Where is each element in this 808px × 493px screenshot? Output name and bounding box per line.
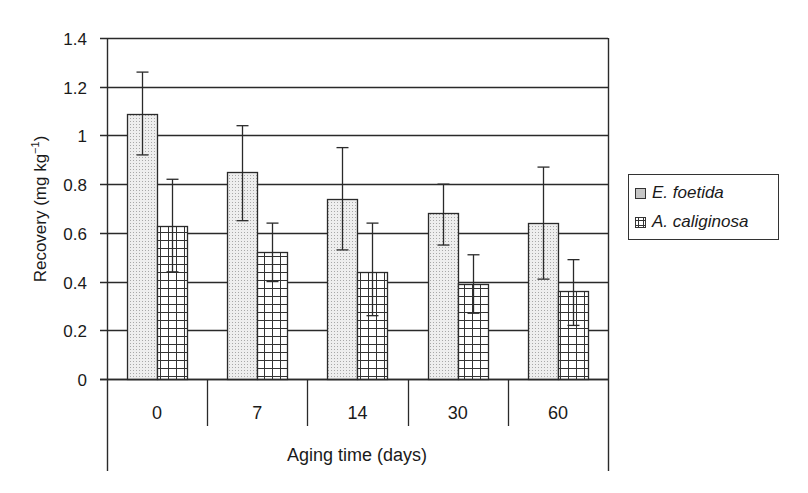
x-category-label: 30 bbox=[448, 403, 468, 423]
legend: E. foetida A. caliginosa bbox=[628, 174, 779, 240]
y-tick-labels: 00.20.40.60.811.21.4 bbox=[63, 30, 87, 390]
x-category-label: 7 bbox=[252, 403, 262, 423]
y-tick-label: 0.8 bbox=[63, 176, 87, 195]
y-axis-label: Recovery (mg kg−1) bbox=[29, 136, 50, 283]
y-axis-label-close: ) bbox=[31, 136, 50, 142]
x-category-label: 60 bbox=[548, 403, 568, 423]
grid-pattern-swatch-icon bbox=[635, 217, 646, 228]
y-axis-label-base: Recovery (mg kg bbox=[31, 154, 50, 282]
y-tick-label: 1.2 bbox=[63, 79, 87, 98]
y-tick-label: 0 bbox=[78, 371, 87, 390]
x-axis-label: Aging time (days) bbox=[287, 445, 427, 465]
bars bbox=[128, 72, 589, 379]
legend-label: A. caliginosa bbox=[652, 212, 748, 232]
y-axis-label-superscript: −1 bbox=[29, 141, 41, 154]
y-tick-label: 1.4 bbox=[63, 30, 87, 49]
x-category-label: 0 bbox=[152, 403, 162, 423]
y-tick-label: 0.2 bbox=[63, 322, 87, 341]
legend-item-e-foetida: E. foetida bbox=[635, 183, 724, 203]
bar-chart: 00.20.40.60.811.21.4 07143060 Aging time… bbox=[0, 0, 808, 493]
y-tick-label: 0.6 bbox=[63, 225, 87, 244]
y-tick-label: 0.4 bbox=[63, 274, 87, 293]
x-category-labels: 07143060 bbox=[152, 403, 568, 423]
legend-item-a-caliginosa: A. caliginosa bbox=[635, 212, 748, 232]
x-category-label: 14 bbox=[347, 403, 367, 423]
legend-label: E. foetida bbox=[652, 183, 724, 203]
y-tick-label: 1 bbox=[78, 127, 87, 146]
dotted-pattern-swatch-icon bbox=[635, 188, 646, 199]
